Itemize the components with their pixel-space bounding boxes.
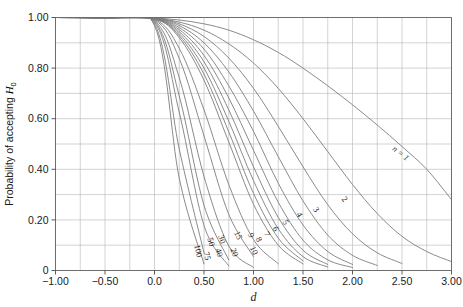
curve-label-15: 15 [232, 229, 244, 241]
curve-label-1: n = 1 [391, 143, 412, 162]
curve-labels: n = 12345678910152030405075100 [192, 143, 411, 261]
oc-curve-n-8 [56, 17, 328, 267]
x-axis-tick-labels: −1.00−0.500.00.501.001.502.002.503.00 [42, 275, 462, 287]
curve-label-40: 40 [213, 247, 225, 258]
y-tick-label: 0.80 [28, 62, 49, 74]
oc-curve-figure: −1.00−0.500.00.501.001.502.002.503.00 00… [0, 0, 463, 307]
x-axis-title: d [251, 290, 258, 304]
x-tick-label: 1.00 [243, 275, 264, 287]
x-tick-label: 2.50 [392, 275, 413, 287]
curve-label-4: 4 [294, 210, 305, 220]
oc-curve-n-40 [56, 15, 229, 260]
y-axis-title: Probability of accepting H0 [3, 82, 18, 206]
x-tick-label: 0.0 [147, 275, 162, 287]
curve-label-30: 30 [216, 234, 228, 245]
curve-label-100: 100 [192, 244, 204, 259]
y-tick-label: 0 [43, 264, 49, 276]
x-tick-label: −0.50 [92, 275, 119, 287]
y-tick-label: 0.40 [28, 163, 49, 175]
chart-canvas: −1.00−0.500.00.501.001.502.002.503.00 00… [0, 0, 463, 307]
curve-label-10: 10 [248, 244, 261, 256]
x-tick-label: 3.00 [441, 275, 462, 287]
curve-label-50: 50 [205, 236, 217, 247]
y-tick-label: 0.20 [28, 214, 49, 226]
curve-label-3: 3 [311, 205, 322, 214]
oc-curve-n-50 [56, 14, 229, 266]
curve-label-8: 8 [254, 235, 265, 243]
x-tick-label: 0.50 [194, 275, 215, 287]
curve-label-2: 2 [340, 194, 350, 204]
oc-curve-n-4 [56, 18, 378, 266]
curve-label-5: 5 [280, 218, 291, 227]
curve-label-20: 20 [228, 247, 240, 258]
x-tick-label: −1.00 [42, 275, 69, 287]
y-tick-label: 0.60 [28, 112, 49, 124]
y-tick-label: 1.00 [28, 11, 49, 23]
x-tick-label: 2.00 [342, 275, 363, 287]
y-axis-tick-labels: 00.200.400.600.801.00 [28, 11, 49, 276]
x-tick-label: 1.50 [293, 275, 314, 287]
